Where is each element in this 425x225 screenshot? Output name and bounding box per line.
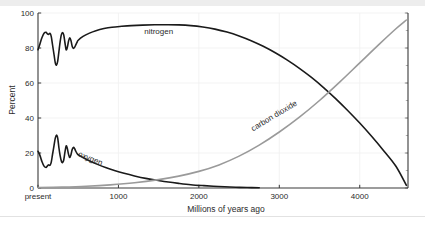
y-tick-label: 100 xyxy=(21,9,35,18)
series-label-oxygen: oxygen xyxy=(77,150,104,168)
y-tick-label: 0 xyxy=(30,184,35,193)
atmosphere-composition-chart: present1000200030004000 020406080100 Mil… xyxy=(0,0,425,225)
x-tick-label: 1000 xyxy=(110,192,128,201)
y-tick-label: 20 xyxy=(25,149,34,158)
x-tick-label: 2000 xyxy=(190,192,208,201)
y-tick-label: 60 xyxy=(25,79,34,88)
x-axis-title: Millions of years ago xyxy=(187,204,265,214)
y-tick-label: 80 xyxy=(25,44,34,53)
series-label-nitrogen: nitrogen xyxy=(144,27,173,36)
x-tick-label: 4000 xyxy=(351,192,369,201)
y-tick-label: 40 xyxy=(25,114,34,123)
x-axis-tick-labels: present1000200030004000 xyxy=(25,192,370,201)
figure-container: present1000200030004000 020406080100 Mil… xyxy=(0,0,425,225)
y-axis-tick-labels: 020406080100 xyxy=(21,9,35,193)
y-axis-title: Percent xyxy=(7,85,17,115)
x-tick-label: present xyxy=(25,192,52,201)
series-label-carbon-dioxide: carbon dioxide xyxy=(249,98,299,133)
x-tick-label: 3000 xyxy=(270,192,288,201)
